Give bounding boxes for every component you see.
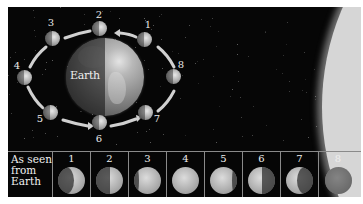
row-label-cell: As seen from Earth	[8, 152, 53, 197]
phase-cell-7: 7	[281, 152, 319, 197]
row-label-line: Earth	[11, 176, 52, 187]
orbit-moon-4	[17, 70, 32, 85]
moon-phase-icon	[286, 167, 313, 194]
orbit-position-label: 5	[37, 113, 43, 124]
orbit-moon-8	[166, 69, 181, 84]
earth-label: Earth	[70, 69, 100, 82]
orbit-position-label: 7	[154, 113, 160, 124]
phase-cell-2: 2	[91, 152, 129, 197]
orbit-moon-6	[92, 115, 107, 130]
orbit-path	[8, 7, 361, 151]
phase-cell-8: 8	[319, 152, 357, 197]
phase-number-label: 6	[243, 153, 280, 164]
orbit-position-label: 8	[178, 59, 184, 70]
orbit-moon-5	[43, 105, 58, 120]
orbit-position-label: 1	[145, 19, 151, 30]
orbit-position-label: 3	[48, 17, 54, 28]
phase-cell-3: 3	[129, 152, 167, 197]
phase-row: As seen from Earth 12345678	[8, 151, 361, 197]
moon-phase-icon	[325, 167, 352, 194]
phase-number-label: 4	[167, 153, 204, 164]
orbit-moon-1	[137, 32, 152, 47]
orbit-position-label: 2	[96, 9, 102, 20]
moon-phases-diagram: Earth 12345678 As seen from Earth 123456…	[8, 7, 361, 197]
as-seen-from-earth-label: As seen from Earth	[11, 154, 52, 187]
moon-phase-icon	[134, 167, 161, 194]
phase-number-label: 5	[205, 153, 242, 164]
phase-number-label: 8	[319, 153, 357, 164]
orbit-moon-7	[138, 105, 153, 120]
phase-number-label: 7	[281, 153, 318, 164]
phase-number-label: 2	[91, 153, 128, 164]
phase-cell-6: 6	[243, 152, 281, 197]
moon-phase-icon	[248, 167, 275, 194]
moon-phase-icon	[58, 167, 85, 194]
phase-cell-4: 4	[167, 152, 205, 197]
moon-phase-icon	[210, 167, 237, 194]
phase-cell-5: 5	[205, 152, 243, 197]
phase-number-label: 3	[129, 153, 166, 164]
orbit-moon-3	[45, 31, 60, 46]
phase-number-label: 1	[53, 153, 90, 164]
orbit-position-label: 4	[14, 60, 20, 71]
phase-cell-1: 1	[53, 152, 91, 197]
moon-phase-icon	[172, 167, 199, 194]
orbit-position-label: 6	[96, 133, 102, 144]
moon-phase-icon	[96, 167, 123, 194]
orbit-moon-2	[92, 21, 107, 36]
